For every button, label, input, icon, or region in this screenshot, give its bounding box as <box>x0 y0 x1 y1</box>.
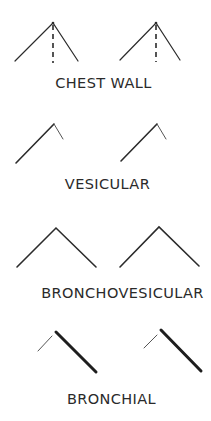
vesicular-figure-right <box>121 124 166 161</box>
vesicular-figure-left <box>16 124 63 163</box>
breath-sounds-diagram <box>0 0 211 421</box>
chest-wall-label: CHEST WALL <box>0 75 209 91</box>
bronchovesicular-figure-right <box>120 227 199 267</box>
vesicular-label: VESICULAR <box>2 176 211 192</box>
chest-wall-figure-right <box>120 22 180 62</box>
bronchovesicular-figure-left <box>17 228 96 267</box>
bronchial-label: BRONCHIAL <box>6 391 211 407</box>
bronchial-figure-left <box>38 332 96 372</box>
chest-wall-figure-left <box>15 22 78 63</box>
bronchovesicular-label: BRONCHOVESICULAR <box>17 285 211 301</box>
bronchial-figure-right <box>144 330 201 371</box>
